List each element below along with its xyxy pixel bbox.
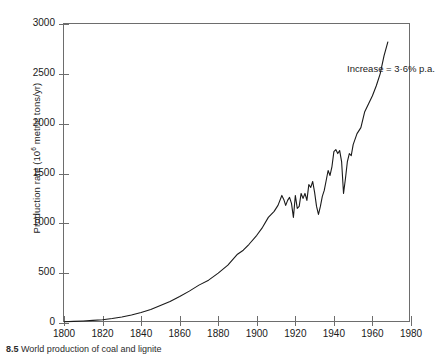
y-tick-label: 0 — [49, 316, 55, 327]
x-tick-label: 1800 — [53, 328, 75, 339]
y-tick-label: 3000 — [33, 17, 55, 28]
y-tick-label: 1000 — [33, 216, 55, 227]
y-tick-label: 1500 — [33, 167, 55, 178]
x-tick-label: 1880 — [207, 328, 229, 339]
y-axis-label-exponent: 6 — [30, 147, 37, 151]
figure-caption-text: World production of coal and lignite — [21, 344, 161, 354]
plot-area: 050010001500200025003000 180018201840186… — [63, 23, 410, 322]
x-tick-label: 1860 — [169, 328, 191, 339]
x-tick-label: 1960 — [361, 328, 383, 339]
x-tick-label: 1940 — [323, 328, 345, 339]
y-tick-label: 2500 — [33, 67, 55, 78]
figure-container: Production rate (106 metric tons/yr) 050… — [0, 0, 437, 354]
x-tick-label: 1820 — [91, 328, 113, 339]
figure-caption: 8.5 World production of coal and lignite — [6, 344, 161, 354]
growth-rate-annotation: Increase = 3·6% p.a. — [347, 63, 435, 74]
x-tick-label: 1900 — [246, 328, 268, 339]
x-tick-mark-outer — [411, 321, 412, 326]
x-tick-label: 1920 — [284, 328, 306, 339]
x-tick-label: 1840 — [130, 328, 152, 339]
series-line-world-coal-production — [64, 42, 388, 322]
y-tick-label: 500 — [38, 266, 55, 277]
x-tick-mark-inner — [411, 316, 412, 321]
x-tick-label: 1980 — [400, 328, 422, 339]
figure-caption-number: 8.5 — [6, 344, 19, 354]
y-axis-label-suffix: metric tons/yr) — [31, 83, 42, 147]
y-tick-label: 2000 — [33, 117, 55, 128]
